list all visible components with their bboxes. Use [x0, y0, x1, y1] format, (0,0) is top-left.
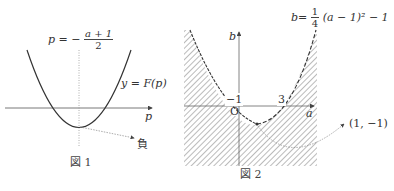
fig2-vertex-annotation: (1, −1) [349, 117, 388, 130]
fig2-origin-label: O [230, 105, 239, 118]
vertex-point [255, 122, 258, 125]
equals: = [298, 11, 307, 24]
denominator: 4 [311, 18, 319, 29]
numerator: 1 [311, 6, 319, 18]
fig2-curve-label: b= 1 4 (a − 1)² − 1 [291, 6, 389, 29]
fraction: 1 4 [311, 6, 319, 29]
figure-1 [5, 50, 152, 146]
denominator: 2 [84, 40, 113, 51]
fig2-tick-left: −1 [225, 93, 243, 106]
fraction: a + 1 2 [84, 28, 113, 51]
figure-2 [184, 30, 344, 166]
lhs-b: b [291, 11, 298, 24]
lhs-p: p [48, 33, 55, 46]
fig1-caption: 図 1 [70, 153, 92, 169]
equals-minus: = − [59, 33, 81, 46]
numerator: a + 1 [84, 28, 113, 40]
rhs: (a − 1)² − 1 [323, 11, 389, 24]
fig1-axis-label: p [145, 110, 152, 123]
hatched-region [184, 30, 317, 166]
fig2-y-axis-label: b [229, 30, 236, 43]
fig1-vertex-annotation: 負 [137, 135, 148, 151]
fig2-caption: 図 2 [240, 165, 262, 181]
vertex-arrow [80, 127, 134, 138]
fig1-symmetry-label: p = − a + 1 2 [48, 28, 113, 51]
fig1-curve-label: y = F(p) [121, 77, 167, 90]
fig2-x-axis-label: a [306, 107, 313, 120]
fig2-tick-right: 3 [277, 93, 286, 106]
